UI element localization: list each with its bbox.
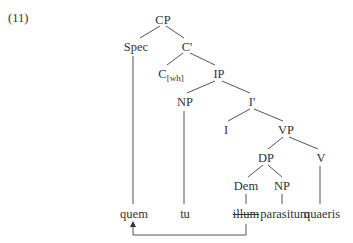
node-vp: VP xyxy=(278,123,294,137)
node-i-head: I xyxy=(224,123,228,137)
node-spec: Spec xyxy=(124,40,148,54)
node-c-bar: C' xyxy=(182,40,193,54)
node-c-feature: [wh] xyxy=(167,73,184,83)
node-dem: Dem xyxy=(234,179,258,193)
node-ip: IP xyxy=(213,67,224,81)
node-i-bar: I' xyxy=(249,95,255,109)
arrowhead-icon xyxy=(130,221,136,227)
node-v: V xyxy=(316,151,325,165)
word-tu: tu xyxy=(180,207,190,221)
word-quem: quem xyxy=(120,207,148,221)
node-np-object: NP xyxy=(274,179,290,193)
node-c-wh: C[wh] xyxy=(158,67,183,85)
node-cp: CP xyxy=(155,13,170,27)
word-illum-struck: illum xyxy=(233,207,259,221)
word-parasitum: parasitum xyxy=(260,207,309,221)
word-quaeris: quaeris xyxy=(304,207,340,221)
node-np-subject: NP xyxy=(177,95,193,109)
node-dp: DP xyxy=(258,151,274,165)
